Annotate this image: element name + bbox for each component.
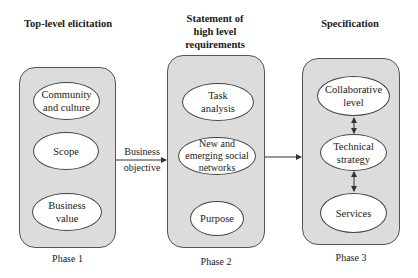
- phase-2-label: Phase 2: [167, 256, 265, 267]
- node-business-value: Business value: [32, 193, 102, 231]
- phase-3-label: Phase 3: [302, 252, 400, 263]
- node-services: Services: [320, 193, 387, 233]
- node-collaborative-level: Collaborative level: [317, 76, 390, 116]
- node-scope: Scope: [33, 132, 99, 170]
- edge-label-objective: objective: [116, 161, 168, 175]
- phase-1-label: Phase 1: [19, 253, 116, 264]
- node-purpose: Purpose: [190, 201, 244, 236]
- node-community-and-culture: Community and culture: [33, 82, 100, 120]
- node-technical-strategy: Technical strategy: [320, 134, 387, 171]
- node-task-analysis: Task analysis: [182, 83, 254, 121]
- node-new-and-emerging-social-networks: New and emerging social networks: [178, 137, 256, 175]
- edge-label-business: Business: [116, 145, 168, 159]
